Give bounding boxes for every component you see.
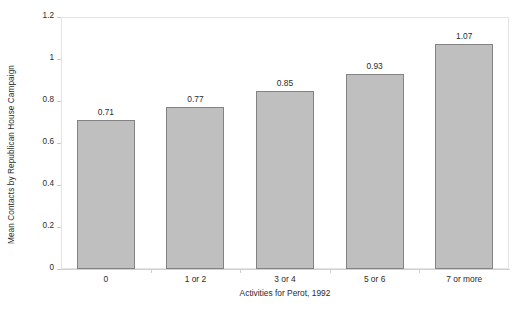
y-axis-title: Mean Contacts by Republican House Campai… xyxy=(0,0,22,309)
bar-value-label: 1.07 xyxy=(456,31,472,41)
bars-layer: 0.710.770.850.931.07 xyxy=(61,17,509,269)
x-tick-mark xyxy=(151,269,152,273)
x-tick-label: 3 or 4 xyxy=(240,274,330,284)
y-axis-tick: 1 xyxy=(0,59,61,60)
bar-value-label: 0.85 xyxy=(277,78,293,88)
y-axis-tick: 0.8 xyxy=(0,101,61,102)
y-tick-label: 1.2 xyxy=(43,11,54,20)
bar-chart: Mean Contacts by Republican House Campai… xyxy=(0,0,517,309)
bar-group: 0.71 xyxy=(61,17,151,269)
x-tick-mark xyxy=(330,269,331,273)
y-tick-label: 1 xyxy=(49,53,54,62)
bar-group: 0.93 xyxy=(330,17,420,269)
bar-value-label: 0.93 xyxy=(366,61,382,71)
bar-value-label: 0.71 xyxy=(98,107,114,117)
y-axis-tick: 1.2 xyxy=(0,17,61,18)
bar-group: 0.85 xyxy=(240,17,330,269)
bar xyxy=(346,74,404,269)
x-tick-mark xyxy=(419,269,420,273)
bar-group: 0.77 xyxy=(151,17,241,269)
y-axis-tick: 0.4 xyxy=(0,185,61,186)
bar-group: 1.07 xyxy=(419,17,509,269)
y-tick-label: 0.2 xyxy=(43,221,54,230)
y-tick-mark xyxy=(57,269,61,270)
bar xyxy=(166,107,224,269)
y-tick-label: 0.4 xyxy=(43,179,54,188)
x-axis-line xyxy=(61,269,510,270)
bar-value-label: 0.77 xyxy=(187,94,203,104)
x-axis-title: Activities for Perot, 1992 xyxy=(61,288,509,298)
bar xyxy=(435,44,493,269)
x-tick-mark xyxy=(240,269,241,273)
y-tick-label: 0.6 xyxy=(43,137,54,146)
x-tick-label: 0 xyxy=(61,274,151,284)
bar xyxy=(77,120,135,269)
x-tick-label: 1 or 2 xyxy=(151,274,241,284)
y-axis-tick: 0.2 xyxy=(0,227,61,228)
x-tick-label: 5 or 6 xyxy=(330,274,420,284)
y-tick-label: 0 xyxy=(49,263,54,272)
y-axis-tick: 0.6 xyxy=(0,143,61,144)
x-tick-label: 7 or more xyxy=(419,274,509,284)
bar xyxy=(256,91,314,270)
y-axis-tick: 0 xyxy=(0,269,61,270)
y-tick-label: 0.8 xyxy=(43,95,54,104)
